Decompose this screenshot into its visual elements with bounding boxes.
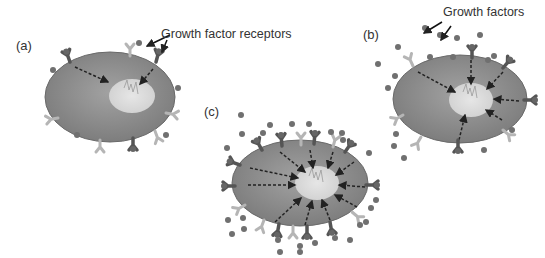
panel-label-b: (b) (363, 27, 379, 42)
nucleus-b (449, 83, 493, 117)
panel-label-c: (c) (204, 104, 219, 119)
annotation-growth-factor-receptors: Growth factor receptors (161, 27, 292, 41)
nucleus-c (295, 166, 339, 200)
cell-c (221, 112, 380, 255)
cell-b (375, 25, 538, 161)
annotation-growth-factors: Growth factors (443, 5, 524, 19)
nucleus-a (109, 79, 155, 113)
panel-label-a: (a) (16, 38, 32, 53)
cell-a (45, 40, 181, 152)
